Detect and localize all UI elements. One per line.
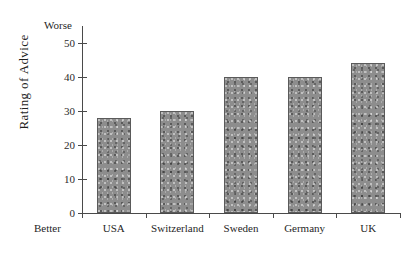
y-tick-mark	[78, 179, 87, 180]
bar-uk	[351, 63, 385, 213]
x-tick-mark	[209, 213, 210, 218]
bar-chart-figure: Rating of Advice Worse Better 0102030405…	[0, 0, 414, 259]
bar-switzerland	[160, 111, 194, 213]
bar-sweden	[224, 77, 258, 213]
x-tick-mark	[336, 213, 337, 218]
y-axis-line	[82, 26, 83, 214]
figure-caption	[52, 249, 392, 259]
y-tick-label: 50	[64, 38, 75, 49]
bar-germany	[288, 77, 322, 213]
y-tick-mark	[78, 145, 87, 146]
scale-note-better: Better	[34, 222, 61, 234]
y-tick-mark	[78, 43, 87, 44]
scale-note-worse: Worse	[44, 19, 72, 31]
y-tick-mark	[78, 111, 87, 112]
y-tick-label: 30	[64, 106, 75, 117]
plot-area: 01020304050	[82, 26, 400, 214]
bar-usa	[97, 118, 131, 213]
x-category-label-switzerland: Switzerland	[151, 222, 204, 234]
x-category-label-usa: USA	[103, 222, 125, 234]
y-tick-label: 0	[70, 208, 76, 219]
x-category-label-germany: Germany	[284, 222, 325, 234]
x-tick-mark	[146, 213, 147, 218]
x-axis-line	[82, 213, 400, 214]
y-tick-label: 40	[64, 72, 75, 83]
x-tick-mark	[400, 213, 401, 218]
x-category-label-uk: UK	[360, 222, 376, 234]
y-tick-mark	[78, 77, 87, 78]
y-axis-title: Rating of Advice	[16, 2, 32, 162]
x-tick-mark	[82, 213, 83, 218]
x-tick-mark	[273, 213, 274, 218]
y-tick-label: 10	[64, 174, 75, 185]
x-category-label-sweden: Sweden	[224, 222, 259, 234]
y-tick-label: 20	[64, 140, 75, 151]
